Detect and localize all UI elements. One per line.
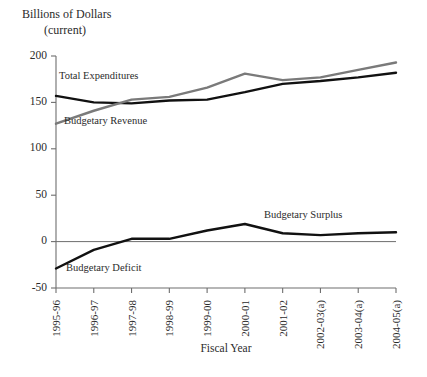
x-tick-label: 1996-97 [88,300,100,337]
chart-container: Billions of Dollars (current) -500501001… [0,0,427,377]
x-tick-label: 2000-01 [239,300,251,337]
y-tick-label: 50 [36,188,48,200]
chart-subtitle: (current) [44,23,86,37]
series-annotation: Budgetary Deficit [66,262,142,273]
y-tick-label: 100 [30,141,48,153]
y-axis-ticks: -50050100150200 [30,49,56,293]
series-annotation: Budgetary Revenue [64,115,147,126]
line-chart: Billions of Dollars (current) -500501001… [0,0,427,377]
x-tick-label: 1999-00 [201,300,213,337]
chart-title: Billions of Dollars [22,7,112,21]
chart-heading-group: Billions of Dollars (current) [22,7,112,37]
series-annotation: Budgetary Surplus [264,209,342,220]
y-tick-label: 150 [30,95,48,107]
series-annotation: Total Expenditures [59,70,138,81]
x-tick-label: 2003-04(a) [352,300,365,349]
x-tick-label: 1995-96 [50,300,62,337]
y-tick-label: 200 [30,49,48,61]
x-tick-label: 1998-99 [163,300,175,337]
x-tick-label: 1997-98 [126,300,138,337]
x-tick-label: 2004-05(a) [390,300,403,349]
y-tick-label: -50 [32,281,48,293]
series-lines [56,63,396,269]
x-tick-label: 2002-03(a) [314,300,327,349]
x-axis-ticks: 1995-961996-971997-981998-991999-002000-… [50,288,403,349]
x-tick-label: 2001-02 [277,300,289,337]
y-tick-label: 0 [41,234,47,246]
x-axis-title: Fiscal Year [200,342,251,354]
